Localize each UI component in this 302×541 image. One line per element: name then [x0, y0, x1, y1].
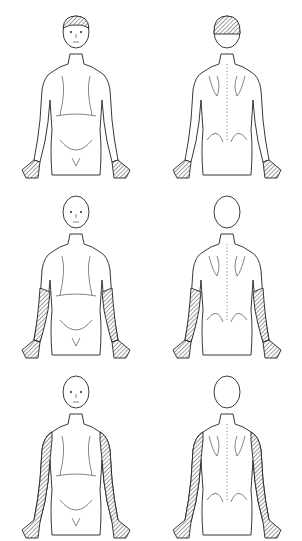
figure-row1-posterior	[151, 0, 302, 180]
hatched-right-arm	[100, 432, 130, 538]
hatched-right-forearm	[102, 288, 130, 358]
hatched-left-forearm	[173, 288, 201, 358]
hatched-left-hand	[173, 160, 191, 178]
hatched-left-arm	[173, 432, 203, 538]
figure-row2-posterior	[151, 180, 302, 360]
figure-row1-anterior	[0, 0, 151, 180]
hatched-head-back	[214, 16, 240, 34]
hatched-left-arm	[22, 432, 52, 538]
hatched-right-hand	[112, 160, 130, 178]
hatched-right-arm	[251, 432, 281, 538]
figure-row2-anterior	[0, 180, 151, 360]
hatched-left-forearm	[22, 288, 50, 358]
figure-row3-anterior	[0, 360, 151, 540]
hatched-right-forearm	[253, 288, 281, 358]
hatched-right-hand	[263, 160, 281, 178]
hatched-left-hand	[22, 160, 40, 178]
figure-row3-posterior	[151, 360, 302, 540]
